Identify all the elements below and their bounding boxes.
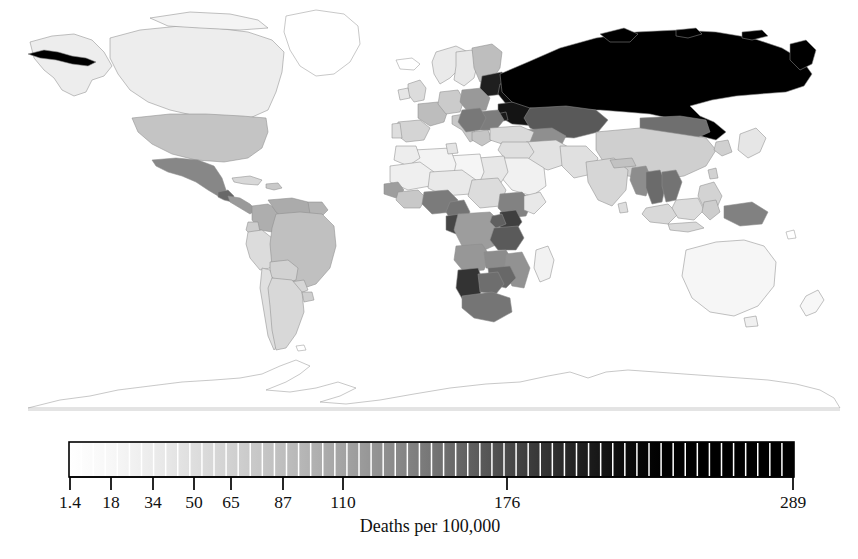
country-antarctica (28, 360, 840, 408)
country-indonesia-borneo (672, 198, 704, 220)
country-ireland (398, 88, 410, 100)
country-ivory-coast-ghana (396, 190, 426, 208)
cut-off-figure-caption (0, 546, 858, 559)
country-korea (714, 140, 732, 156)
region-asia-pacific (586, 128, 824, 327)
country-japan (738, 128, 766, 158)
country-indonesia-java (668, 222, 704, 232)
colorbar-tick-label: 34 (144, 492, 162, 512)
country-greece (472, 130, 492, 146)
country-taiwan (708, 168, 718, 179)
region-north-america (28, 10, 360, 214)
country-greenland (284, 10, 360, 76)
colorbar-legend: 1.41834506587110176289 Deaths per 100,00… (0, 420, 858, 559)
colorbar-tick-label: 110 (330, 492, 356, 512)
country-portugal (392, 123, 402, 138)
country-canada (110, 26, 284, 120)
country-new-zealand (800, 290, 824, 316)
country-madagascar (534, 246, 554, 282)
country-united-kingdom (408, 80, 426, 102)
country-somalia (524, 192, 546, 214)
country-south-africa (462, 292, 512, 322)
colorbar-tick-label: 1.4 (59, 492, 81, 512)
country-russia-new-siberian-islands (742, 30, 768, 40)
colorbar-tick-label: 65 (222, 492, 240, 512)
world-map-panel (0, 0, 858, 420)
country-united-republic-of-tanzania (490, 226, 524, 250)
colorbar-tick-label: 87 (274, 492, 292, 512)
colorbar-tick-label: 18 (102, 492, 120, 512)
region-antarctica (28, 360, 840, 410)
colorbar-tick-label: 50 (185, 492, 203, 512)
country-falkland-islands (296, 345, 306, 351)
country-papua-new-guinea (724, 202, 768, 226)
country-pacific-islands (786, 230, 796, 239)
country-sri-lanka (618, 202, 628, 213)
colorbar-ticks (70, 477, 793, 490)
country-tasmania (744, 316, 758, 327)
country-united-states (132, 114, 268, 162)
colorbar-caption: Deaths per 100,000 (360, 516, 500, 536)
colorbar-legend-svg: 1.41834506587110176289 Deaths per 100,00… (0, 420, 858, 559)
colorbar-tick-label: 176 (494, 492, 521, 512)
country-hispaniola (266, 183, 282, 190)
country-mexico (152, 158, 226, 196)
world-map-svg (0, 0, 858, 420)
country-tunisia (446, 143, 458, 154)
region-south-america (246, 198, 336, 351)
colorbar-tick-labels: 1.41834506587110176289 (59, 492, 806, 512)
country-cuba (232, 176, 262, 185)
country-australia (682, 240, 776, 316)
colorbar-tick-label: 289 (780, 492, 807, 512)
country-uruguay (302, 292, 314, 302)
country-nepal-bhutan (610, 158, 636, 168)
figure-root: 1.41834506587110176289 Deaths per 100,00… (0, 0, 858, 559)
country-united-states-alaska (30, 34, 112, 96)
country-iceland (396, 58, 420, 70)
